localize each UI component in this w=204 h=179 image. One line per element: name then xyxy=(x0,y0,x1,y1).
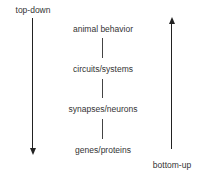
bottom-up-label: bottom-up xyxy=(153,160,191,170)
connector-line xyxy=(102,79,103,98)
top-down-label: top-down xyxy=(16,5,51,15)
level-genes-proteins: genes/proteins xyxy=(75,145,131,155)
connector-line xyxy=(102,38,103,58)
bottom-up-arrow-shaft xyxy=(171,22,172,149)
level-animal-behavior: animal behavior xyxy=(73,24,133,34)
level-circuits-systems: circuits/systems xyxy=(73,64,133,74)
connector-line xyxy=(102,119,103,139)
top-down-arrow-shaft xyxy=(32,18,33,150)
arrow-down-icon xyxy=(30,148,36,155)
level-synapses-neurons: synapses/neurons xyxy=(69,104,138,114)
